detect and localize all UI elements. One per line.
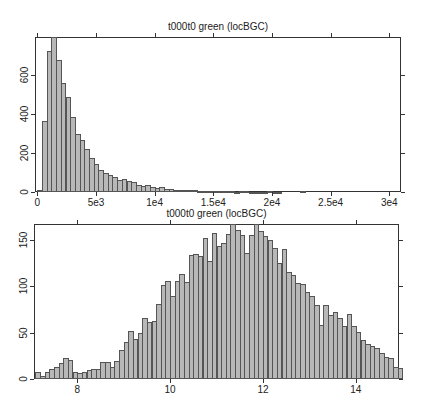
- x-tick-label: 10: [164, 384, 175, 395]
- x-tick: [170, 220, 171, 224]
- y-tick-label: 0: [19, 189, 30, 195]
- x-tick-label: 3e4: [381, 197, 398, 208]
- y-tick: [31, 114, 35, 115]
- x-tick-label: 12: [257, 384, 268, 395]
- x-tick: [263, 220, 264, 224]
- x-tick: [155, 192, 156, 196]
- x-tick-label: 5e3: [88, 197, 105, 208]
- x-tick: [155, 33, 156, 37]
- y-tick-label: 50: [18, 327, 29, 338]
- x-tick: [96, 192, 97, 196]
- x-tick: [37, 192, 38, 196]
- x-tick: [356, 220, 357, 224]
- x-tick: [263, 379, 264, 383]
- histogram-bar: [398, 368, 404, 379]
- histogram-bar: [277, 192, 283, 194]
- y-tick: [30, 333, 34, 334]
- x-tick: [356, 379, 357, 383]
- y-tick: [30, 379, 34, 380]
- x-tick-label: 8: [74, 384, 80, 395]
- y-tick-label: 150: [18, 231, 29, 248]
- x-tick-label: 1e4: [146, 197, 163, 208]
- plot-title-bottom: t000t0 green (locBGC): [34, 208, 399, 219]
- x-tick: [213, 33, 214, 37]
- y-tick: [399, 379, 403, 380]
- y-tick: [30, 286, 34, 287]
- x-tick: [331, 192, 332, 196]
- x-tick: [77, 220, 78, 224]
- y-tick: [401, 114, 405, 115]
- x-tick: [213, 192, 214, 196]
- y-tick: [31, 192, 35, 193]
- y-tick-label: 100: [18, 278, 29, 295]
- y-tick: [30, 240, 34, 241]
- x-tick: [77, 379, 78, 383]
- y-tick: [399, 333, 403, 334]
- y-tick: [31, 153, 35, 154]
- x-tick-label: 2.5e4: [318, 197, 343, 208]
- plot-title-top: t000t0 green (locBGC): [35, 21, 401, 32]
- x-tick-label: 2e4: [264, 197, 281, 208]
- y-tick-label: 200: [19, 145, 30, 162]
- x-tick-label: 0: [35, 197, 41, 208]
- x-tick: [96, 33, 97, 37]
- x-tick-label: 1.5e4: [201, 197, 226, 208]
- y-tick: [399, 286, 403, 287]
- y-tick: [401, 153, 405, 154]
- x-tick: [389, 33, 390, 37]
- y-tick: [401, 75, 405, 76]
- x-tick: [272, 33, 273, 37]
- y-tick-label: 0: [18, 376, 29, 382]
- y-tick: [401, 192, 405, 193]
- y-tick: [399, 240, 403, 241]
- y-tick: [31, 75, 35, 76]
- x-tick: [170, 379, 171, 383]
- x-tick: [37, 33, 38, 37]
- y-tick-label: 600: [19, 67, 30, 84]
- y-tick-label: 400: [19, 106, 30, 123]
- x-tick-label: 14: [350, 384, 361, 395]
- histogram-bar: [300, 191, 306, 193]
- x-tick: [272, 192, 273, 196]
- x-tick: [331, 33, 332, 37]
- x-tick: [389, 192, 390, 196]
